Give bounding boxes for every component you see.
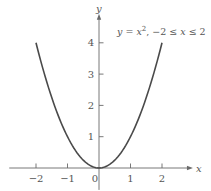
curve-annotation: y = x2, −2 ≤ x ≤ 2 bbox=[116, 25, 206, 37]
y-axis-arrow-icon bbox=[97, 14, 101, 20]
x-tick-label: 0 bbox=[92, 173, 98, 184]
x-tick-label: −2 bbox=[29, 173, 44, 184]
axes bbox=[9, 14, 193, 190]
x-axis-arrow-icon bbox=[187, 166, 193, 170]
y-tick-label: 4 bbox=[88, 37, 94, 48]
x-axis-label: x bbox=[196, 163, 202, 174]
parabola-chart: −2−10121234 x y y = x2, −2 ≤ x ≤ 2 bbox=[0, 0, 211, 191]
annotation-equals: = bbox=[122, 26, 136, 37]
annotation-domain-suffix: ≤ 2 bbox=[186, 26, 206, 37]
tick-labels: −2−10121234 bbox=[29, 37, 166, 184]
y-tick-label: 3 bbox=[88, 69, 94, 80]
y-tick-label: 1 bbox=[88, 131, 94, 142]
y-tick-label: 2 bbox=[88, 100, 94, 111]
y-axis-label: y bbox=[95, 3, 102, 14]
x-tick-label: −1 bbox=[60, 173, 75, 184]
x-tick-label: 1 bbox=[127, 173, 133, 184]
annotation-domain-prefix: , −2 ≤ bbox=[146, 26, 180, 37]
x-tick-label: 2 bbox=[159, 173, 165, 184]
